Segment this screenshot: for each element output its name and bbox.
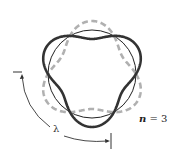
orbit-circle [48,30,136,118]
standing-wave-diagram [0,0,182,152]
lambda-arrowhead-lower-icon [105,139,110,143]
n-value: = 3 [146,113,167,124]
solid-wave-curve [43,36,141,127]
lambda-arc-lower [64,136,108,141]
quantum-number-label: n = 3 [139,113,167,124]
wavelength-label: λ [53,123,59,134]
lambda-arrowhead-upper-icon [20,74,24,79]
dashed-wave-curve [43,21,141,112]
